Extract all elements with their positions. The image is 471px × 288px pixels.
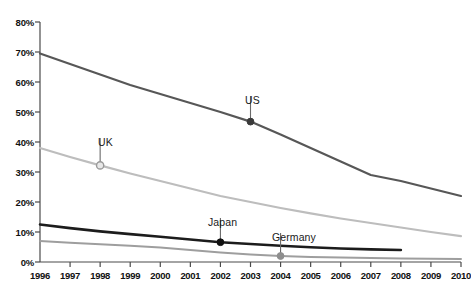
marker-uk (97, 162, 104, 169)
series-line-uk (40, 148, 461, 236)
marker-japan (217, 239, 224, 246)
marker-us (247, 118, 254, 125)
marker-germany (277, 253, 284, 260)
x-tick-label: 1997 (60, 270, 80, 281)
x-tick-label: 2004 (271, 270, 291, 281)
series-label-japan: Japan (208, 216, 237, 228)
series-label-germany: Germany (272, 231, 316, 243)
x-tick-label: 1999 (120, 270, 140, 281)
x-tick-label: 2003 (241, 270, 261, 281)
series-label-uk: UK (98, 136, 113, 148)
x-tick-label: 2010 (451, 270, 471, 281)
x-tick-label: 2007 (361, 270, 381, 281)
x-tick-label: 1998 (90, 270, 110, 281)
x-tick-label: 2001 (180, 270, 200, 281)
x-tick-label: 2002 (210, 270, 230, 281)
x-tick-label: 2006 (331, 270, 351, 281)
x-tick-label: 2008 (391, 270, 411, 281)
x-tick-label: 2000 (150, 270, 170, 281)
series-label-us: US (245, 94, 260, 106)
x-tick-label: 2009 (421, 270, 441, 281)
x-tick-label: 2005 (301, 270, 321, 281)
x-tick-label: 1996 (30, 270, 50, 281)
